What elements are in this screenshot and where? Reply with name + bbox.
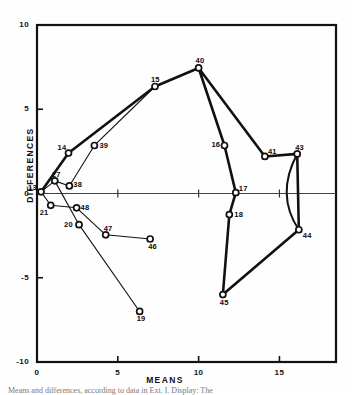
data-point-label: 38 bbox=[73, 180, 82, 189]
y-tick-label: 10 bbox=[3, 20, 29, 29]
data-point-label: 15 bbox=[151, 75, 160, 84]
data-point-marker bbox=[152, 84, 158, 90]
x-tick-label: 5 bbox=[107, 368, 129, 377]
x-tick-label: 15 bbox=[268, 368, 290, 377]
series-path bbox=[55, 181, 140, 312]
data-point-label: 19 bbox=[137, 314, 146, 323]
data-point-marker bbox=[66, 150, 72, 156]
data-point-marker bbox=[74, 205, 80, 211]
x-tick-label: 10 bbox=[188, 368, 210, 377]
data-point-label: 43 bbox=[295, 143, 304, 152]
data-point-label: 17 bbox=[239, 184, 248, 193]
y-tick-label: -5 bbox=[3, 273, 29, 282]
data-point-marker bbox=[221, 142, 227, 148]
plot-frame bbox=[37, 25, 336, 362]
data-point-label: 21 bbox=[40, 208, 49, 217]
data-point-marker bbox=[91, 142, 97, 148]
data-point-label: 20 bbox=[64, 220, 73, 229]
data-point-label: 18 bbox=[234, 210, 243, 219]
data-point-label: 48 bbox=[81, 203, 90, 212]
x-tick-label: 0 bbox=[26, 368, 48, 377]
data-point-label: 14 bbox=[58, 143, 67, 152]
data-point-label: 27 bbox=[52, 170, 61, 179]
data-point-label: 47 bbox=[104, 224, 113, 233]
data-point-label: 44 bbox=[303, 231, 312, 240]
data-point-marker bbox=[48, 202, 54, 208]
data-point-marker bbox=[66, 183, 72, 189]
data-point-marker bbox=[38, 189, 44, 195]
data-paths bbox=[41, 68, 299, 311]
data-point-label: 16 bbox=[211, 140, 220, 149]
series-path bbox=[41, 192, 150, 239]
data-point-marker bbox=[76, 222, 82, 228]
data-point-label: 13 bbox=[28, 183, 37, 192]
data-point-label: 40 bbox=[196, 56, 205, 65]
y-tick-label: -10 bbox=[3, 357, 29, 366]
y-tick-label: 5 bbox=[3, 104, 29, 113]
figure-caption: Means and differences, according to data… bbox=[8, 386, 348, 395]
data-point-marker bbox=[226, 212, 232, 218]
data-point-label: 45 bbox=[220, 298, 229, 307]
data-point-label: 41 bbox=[268, 147, 277, 156]
data-point-label: 39 bbox=[99, 141, 108, 150]
data-point-label: 46 bbox=[148, 242, 157, 251]
data-point-marker bbox=[296, 227, 302, 233]
data-point-marker bbox=[196, 65, 202, 71]
y-tick-label: 0 bbox=[3, 189, 29, 198]
data-markers bbox=[38, 65, 302, 314]
